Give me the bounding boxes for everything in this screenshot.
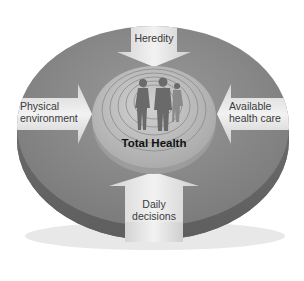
daily-decisions-label: Daily decisions xyxy=(125,198,183,222)
available-health-care-label: Available health care xyxy=(229,100,291,124)
daily-decisions-line2: decisions xyxy=(125,210,183,222)
physical-environment-line1: Physical xyxy=(20,100,84,112)
available-health-care-line2: health care xyxy=(229,112,291,124)
daily-decisions-line1: Daily xyxy=(125,198,183,210)
total-health-diagram: Heredity Physical environment Available … xyxy=(0,0,304,281)
heredity-label: Heredity xyxy=(129,32,179,44)
available-health-care-line1: Available xyxy=(229,100,291,112)
physical-environment-label: Physical environment xyxy=(20,100,84,124)
physical-environment-line2: environment xyxy=(20,112,84,124)
total-health-label: Total Health xyxy=(104,137,204,149)
